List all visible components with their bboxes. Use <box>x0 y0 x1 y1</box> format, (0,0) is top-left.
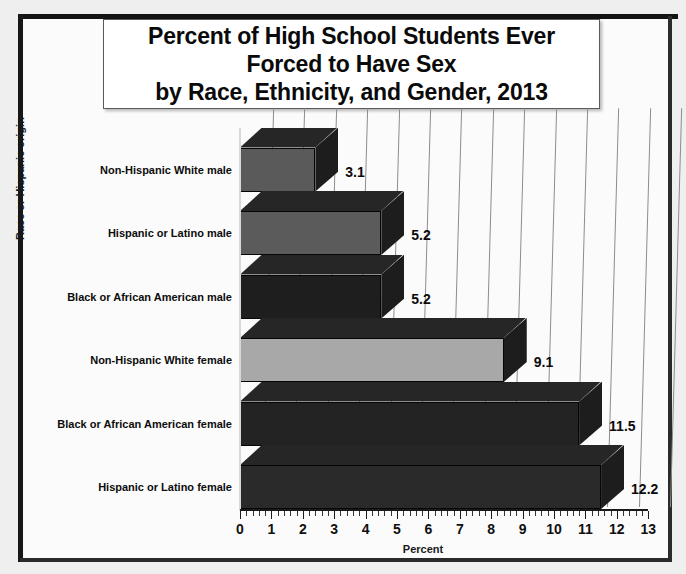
bar-top-face <box>240 255 403 275</box>
x-tick-label: 11 <box>578 521 593 537</box>
category-label: Non-Hispanic White female <box>40 354 232 366</box>
category-label: Black or African American female <box>40 418 232 430</box>
x-tick-minor <box>604 511 605 516</box>
x-tick-minor <box>403 511 404 516</box>
x-tick-minor <box>309 511 310 516</box>
bar-front-face <box>240 148 315 192</box>
x-tick-minor <box>359 511 360 516</box>
x-tick <box>428 511 429 519</box>
value-label: 11.5 <box>609 418 635 434</box>
x-tick-minor <box>441 511 442 516</box>
x-tick-minor <box>548 511 549 516</box>
x-tick-minor <box>372 511 373 516</box>
bar-front-face <box>240 211 381 255</box>
x-tick-minor <box>516 511 517 516</box>
x-tick-minor <box>410 511 411 516</box>
bar-front-face <box>240 402 579 446</box>
x-tick-minor <box>623 511 624 516</box>
x-tick <box>523 511 524 519</box>
x-tick-label: 0 <box>236 521 244 537</box>
x-tick-minor <box>315 511 316 516</box>
x-tick-minor <box>422 511 423 516</box>
x-tick <box>240 511 241 519</box>
x-tick-minor <box>629 511 630 516</box>
x-tick-minor <box>598 511 599 516</box>
x-tick-label: 9 <box>519 521 527 537</box>
bar-front-face <box>240 465 601 509</box>
bar-top-face <box>240 318 526 338</box>
x-tick <box>585 511 586 519</box>
x-tick-label: 8 <box>487 521 495 537</box>
x-tick <box>397 511 398 519</box>
x-tick-label: 7 <box>456 521 464 537</box>
x-tick-minor <box>592 511 593 516</box>
x-tick-minor <box>328 511 329 516</box>
x-tick-label: 1 <box>267 521 275 537</box>
x-axis-title-text: Percent <box>403 543 443 555</box>
category-label: Non-Hispanic White male <box>40 164 232 176</box>
bar-top-face <box>240 445 623 465</box>
x-tick-minor <box>466 511 467 516</box>
x-tick-label: 12 <box>609 521 625 537</box>
x-tick-minor <box>384 511 385 516</box>
x-tick-minor <box>472 511 473 516</box>
x-tick <box>460 511 461 519</box>
x-tick-minor <box>504 511 505 516</box>
value-label: 5.2 <box>411 291 430 307</box>
x-tick-minor <box>485 511 486 516</box>
x-tick-minor <box>560 511 561 516</box>
x-tick-minor <box>636 511 637 516</box>
value-label: 3.1 <box>345 164 364 180</box>
gridline <box>670 108 682 507</box>
x-tick-minor <box>447 511 448 516</box>
x-tick-minor <box>253 511 254 516</box>
x-tick-minor <box>541 511 542 516</box>
x-axis-line <box>240 509 648 511</box>
x-tick-minor <box>435 511 436 516</box>
x-tick-minor <box>535 511 536 516</box>
category-label: Hispanic or Latino male <box>40 227 232 239</box>
y-axis-line <box>239 128 241 511</box>
value-label: 5.2 <box>411 227 430 243</box>
x-tick-minor <box>642 511 643 516</box>
gridline <box>639 108 651 507</box>
x-tick-minor <box>567 511 568 516</box>
x-tick-minor <box>454 511 455 516</box>
x-tick-minor <box>340 511 341 516</box>
x-tick-minor <box>347 511 348 516</box>
x-tick <box>491 511 492 519</box>
x-tick <box>303 511 304 519</box>
x-tick-minor <box>497 511 498 516</box>
x-tick-label: 3 <box>330 521 338 537</box>
x-tick-minor <box>246 511 247 516</box>
x-tick-minor <box>278 511 279 516</box>
category-label: Hispanic or Latino female <box>40 481 232 493</box>
x-tick-minor <box>529 511 530 516</box>
x-tick-minor <box>391 511 392 516</box>
x-tick-label: 2 <box>299 521 307 537</box>
plot-area: 012345678910111213 Non-Hispanic White ma… <box>0 0 686 574</box>
x-tick-minor <box>297 511 298 516</box>
x-tick-minor <box>573 511 574 516</box>
x-tick <box>334 511 335 519</box>
x-tick-minor <box>479 511 480 516</box>
x-tick-minor <box>259 511 260 516</box>
x-tick <box>554 511 555 519</box>
x-tick-minor <box>284 511 285 516</box>
x-tick-label: 6 <box>424 521 432 537</box>
bar-front-face <box>240 338 504 382</box>
x-tick-minor <box>378 511 379 516</box>
y-axis-title: Race or Hispanic origin <box>14 117 26 240</box>
bar-front-face <box>240 275 381 319</box>
bar-top-face <box>240 382 601 402</box>
value-label: 12.2 <box>631 481 658 497</box>
x-tick-minor <box>579 511 580 516</box>
x-tick-minor <box>265 511 266 516</box>
x-tick-minor <box>322 511 323 516</box>
x-tick-minor <box>510 511 511 516</box>
x-tick-label: 4 <box>362 521 370 537</box>
x-tick-minor <box>416 511 417 516</box>
x-tick <box>648 511 649 519</box>
category-label: Black or African American male <box>40 291 232 303</box>
x-tick <box>271 511 272 519</box>
